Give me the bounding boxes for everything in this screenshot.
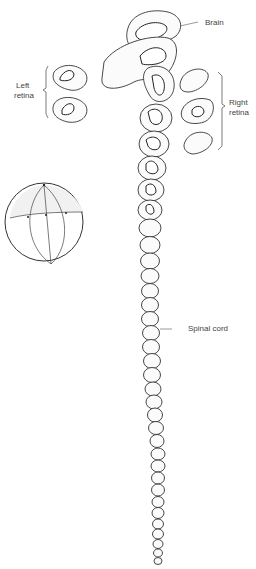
diagram-canvas bbox=[0, 0, 256, 569]
brain-leader-line bbox=[180, 22, 198, 26]
left-retina-label-line1: Left bbox=[16, 81, 29, 91]
brain-label: Brain bbox=[205, 18, 224, 28]
spinal-cord bbox=[138, 104, 172, 565]
brain-sections bbox=[102, 11, 181, 102]
left-retina bbox=[43, 65, 87, 122]
right-retina-label-line1: Right bbox=[229, 98, 248, 108]
right-retina bbox=[180, 69, 225, 154]
right-retina-label-line2: retina bbox=[229, 108, 249, 118]
embryo-sphere bbox=[5, 183, 83, 264]
spinal-cord-label: Spinal cord bbox=[188, 324, 228, 334]
left-retina-label-line2: retina bbox=[14, 91, 34, 101]
